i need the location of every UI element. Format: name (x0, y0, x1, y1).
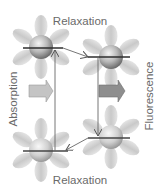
molecule-bottom-left (10, 118, 72, 182)
block-arrow-absorption-icon (29, 80, 53, 102)
label-relaxation-top: Relaxation (53, 15, 107, 27)
sphere-icon (99, 125, 123, 149)
molecule-bottom-right (80, 105, 142, 169)
label-absorption: Absorption (7, 72, 19, 127)
jablonski-diagram: Relaxation Relaxation Absorption Fluores… (0, 0, 162, 192)
sphere-icon (29, 138, 53, 162)
label-relaxation-bottom: Relaxation (53, 174, 107, 186)
label-fluorescence: Fluorescence (143, 61, 155, 130)
sphere-icon (29, 35, 53, 59)
